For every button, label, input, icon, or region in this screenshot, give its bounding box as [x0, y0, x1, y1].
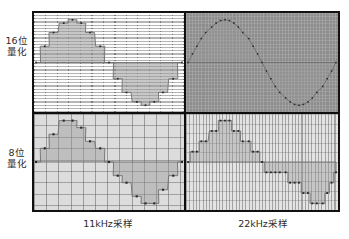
row-label-8bit-line2: 量化 [2, 159, 31, 170]
panel-16bit-11khz-waveform [34, 13, 184, 112]
panel-grid [34, 13, 338, 210]
row-label-16bit-line2: 量化 [2, 47, 31, 58]
row-label-8bit-line1: 8位 [2, 148, 31, 159]
panel-8bit-11khz-waveform [34, 114, 184, 210]
panel-8bit-22khz [186, 114, 338, 210]
figure-frame [32, 11, 340, 212]
panel-8bit-22khz-waveform [186, 114, 338, 210]
panel-16bit-11khz [34, 13, 184, 112]
quantization-sampling-figure: 16位 量化 8位 量化 11kHz采样 22kHz采样 [0, 0, 349, 239]
row-label-16bit-line1: 16位 [2, 36, 31, 47]
column-label-22khz: 22kHz采样 [186, 218, 340, 229]
panel-divider-vertical [184, 13, 186, 210]
column-label-11khz: 11kHz采样 [32, 218, 184, 229]
panel-8bit-11khz [34, 114, 184, 210]
panel-16bit-22khz-waveform [186, 13, 338, 112]
panel-16bit-22khz [186, 13, 338, 112]
panel-divider-horizontal [34, 112, 338, 114]
row-label-16bit: 16位 量化 [2, 36, 31, 57]
row-label-8bit: 8位 量化 [2, 148, 31, 169]
